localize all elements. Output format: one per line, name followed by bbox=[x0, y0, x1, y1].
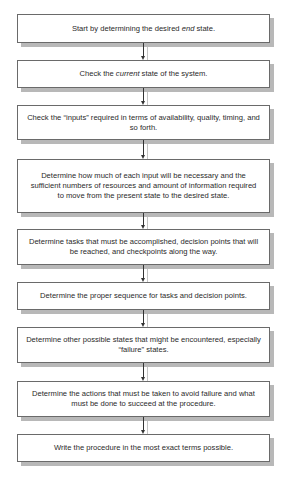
procedure-flowchart: Start by determining the desired end sta… bbox=[0, 0, 297, 483]
arrow-5-6 bbox=[143, 265, 144, 278]
step-8-text: Determine the actions that must be taken… bbox=[24, 389, 263, 409]
step-9-text: Write the procedure in the most exact te… bbox=[54, 443, 233, 453]
step-7-box: Determine other possible states that mig… bbox=[17, 327, 270, 363]
arrow-8-9 bbox=[143, 417, 144, 430]
arrow-4-5 bbox=[143, 213, 144, 225]
step-5-box: Determine tasks that must be accomplishe… bbox=[17, 229, 270, 265]
step-1-box: Start by determining the desired end sta… bbox=[17, 14, 270, 43]
arrow-shadow-1 bbox=[147, 47, 148, 60]
step-2-box: Check the current state of the system. bbox=[17, 60, 270, 88]
step-6-text: Determine the proper sequence for tasks … bbox=[40, 291, 247, 301]
arrow-2-3 bbox=[143, 88, 144, 101]
step-3-text: Check the “inputs” required in terms of … bbox=[24, 113, 263, 133]
step-4-box: Determine how much of each input will be… bbox=[17, 159, 270, 213]
step-3-box: Check the “inputs” required in terms of … bbox=[17, 105, 270, 140]
arrow-6-7 bbox=[143, 310, 144, 323]
step-6-box: Determine the proper sequence for tasks … bbox=[17, 282, 270, 310]
arrow-7-8 bbox=[143, 363, 144, 377]
arrow-shadow-7 bbox=[147, 367, 148, 381]
arrow-shadow-6 bbox=[147, 314, 148, 327]
step-8-box: Determine the actions that must be taken… bbox=[17, 381, 270, 417]
step-1-text: Start by determining the desired end sta… bbox=[72, 24, 215, 34]
step-7-text: Determine other possible states that mig… bbox=[24, 335, 263, 355]
arrow-shadow-4 bbox=[147, 217, 148, 229]
arrow-3-4 bbox=[143, 140, 144, 155]
arrow-shadow-5 bbox=[147, 269, 148, 282]
step-4-text: Determine how much of each input will be… bbox=[28, 171, 259, 200]
arrow-1-2 bbox=[143, 43, 144, 56]
step-5-text: Determine tasks that must be accomplishe… bbox=[24, 237, 263, 257]
arrow-shadow-3 bbox=[147, 144, 148, 159]
step-2-text: Check the current state of the system. bbox=[80, 69, 208, 79]
arrow-shadow-8 bbox=[147, 421, 148, 434]
arrow-shadow-2 bbox=[147, 92, 148, 105]
step-9-box: Write the procedure in the most exact te… bbox=[17, 434, 270, 462]
